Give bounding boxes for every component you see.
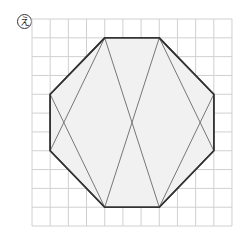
- octagon-diagram: [0, 0, 248, 236]
